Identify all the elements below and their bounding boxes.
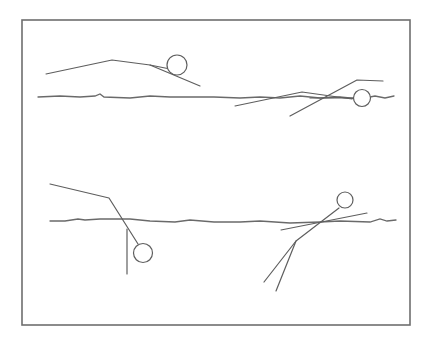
figure-floating-prone: [46, 55, 200, 86]
head-circle: [354, 90, 371, 107]
limb-line: [50, 184, 138, 244]
diagram-frame: [22, 20, 410, 325]
limb-line: [276, 241, 296, 291]
figure-swimming-surface: [235, 80, 383, 116]
swimmer-positions-diagram: [0, 0, 428, 342]
head-circle: [167, 55, 187, 75]
limb-line: [235, 92, 352, 106]
limb-line: [264, 208, 339, 282]
head-circle: [337, 192, 353, 208]
figure-diving-head-down: [50, 184, 153, 274]
lower-water-surface: [50, 219, 396, 223]
head-circle: [134, 244, 153, 263]
figure-treading-vertical: [264, 192, 367, 291]
figures: [46, 55, 383, 291]
